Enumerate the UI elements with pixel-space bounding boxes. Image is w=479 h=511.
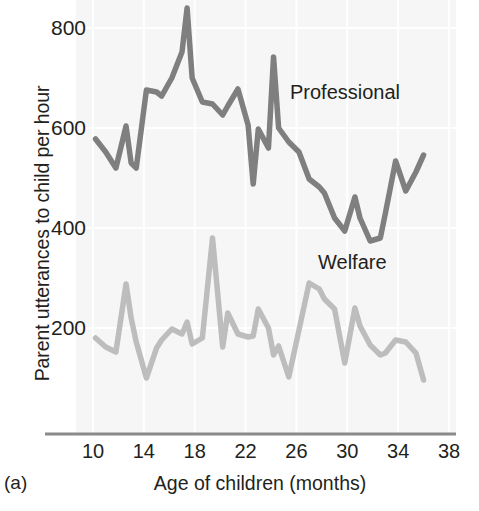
x-tick-label: 22 <box>234 441 256 461</box>
x-tick-label: 30 <box>336 441 358 461</box>
y-axis-title: Parent utterances to child per hour <box>31 44 54 424</box>
x-tick-label: 10 <box>82 441 104 461</box>
x-tick-label: 34 <box>387 441 409 461</box>
panel-label: (a) <box>4 472 27 494</box>
y-tick-label: 800 <box>30 17 86 38</box>
x-tick-label: 38 <box>438 441 460 461</box>
series-label-welfare: Welfare <box>318 251 387 274</box>
series-label-professional: Professional <box>290 81 400 104</box>
figure-panel-a: 200400600800 1014182226303438 Parent utt… <box>0 0 479 511</box>
x-tick-label: 18 <box>184 441 206 461</box>
x-tick-label: 14 <box>133 441 155 461</box>
x-axis-title: Age of children (months) <box>60 472 460 495</box>
x-tick-label: 26 <box>285 441 307 461</box>
